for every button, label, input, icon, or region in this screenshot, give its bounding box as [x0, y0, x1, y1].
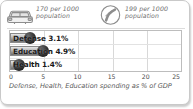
stat-telephones-unit: population [125, 12, 168, 19]
bar-row[interactable]: Defense 3.1% [10, 31, 181, 44]
telephone-circle-icon [98, 3, 124, 27]
bar-label: Defense 3.1% [13, 33, 68, 43]
stat-cars-text: 170 per 1000 population [36, 5, 79, 20]
chart-x-axis: 0510152025 [9, 72, 182, 82]
bar-label: Health 1.4% [13, 60, 62, 70]
x-tick-label: 25 [172, 73, 180, 80]
stats-strip: 170 per 1000 population 199 per 1000 pop… [1, 1, 190, 28]
header-divider [7, 28, 185, 29]
stat-cars-unit: population [36, 12, 79, 19]
stat-telephones: 199 per 1000 population [98, 2, 190, 28]
bar-row[interactable]: Education 4.9% [10, 44, 181, 57]
bar-row[interactable]: Health 1.4% [10, 58, 181, 71]
stat-telephones-value: 199 per 1000 [125, 5, 168, 12]
stat-cars: 170 per 1000 population [4, 2, 96, 28]
stat-telephones-text: 199 per 1000 population [125, 5, 168, 20]
x-tick-label: 20 [142, 73, 150, 80]
chart-caption: Defense, Health, Education spending as %… [9, 82, 185, 90]
chart-plot-area: Defense 3.1%Education 4.9%Health 1.4% [9, 30, 182, 72]
bar-label: Education 4.9% [13, 46, 75, 56]
infographic-card: 170 per 1000 population 199 per 1000 pop… [0, 0, 190, 105]
x-tick-label: 15 [108, 73, 116, 80]
x-tick-label: 5 [41, 73, 45, 80]
x-tick-label: 10 [73, 73, 81, 80]
bar-chart: Defense 3.1%Education 4.9%Health 1.4% 05… [1, 30, 190, 105]
car-icon [4, 3, 36, 27]
x-tick-label: 0 [9, 73, 13, 80]
stat-cars-value: 170 per 1000 [36, 5, 79, 12]
